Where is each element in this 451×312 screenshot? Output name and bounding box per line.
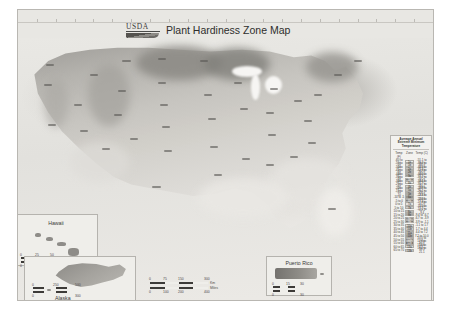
legend-temp-f: 65 to 70 <box>393 248 405 252</box>
legend-rows: -60 to -551a-51.1 to -48.3-55 to -501b-4… <box>393 160 429 252</box>
graticule-tick <box>358 19 359 22</box>
state-label <box>308 142 316 144</box>
state-label <box>44 84 52 86</box>
state-label <box>314 94 322 96</box>
state-label <box>164 150 172 152</box>
inset-alaska-label: Alaska <box>55 295 71 301</box>
state-label <box>242 158 250 160</box>
state-label <box>268 134 276 136</box>
vieques-island <box>320 273 324 275</box>
state-label <box>200 60 208 62</box>
state-label <box>158 82 166 84</box>
graticule-tick <box>112 19 113 22</box>
graticule-tick <box>395 19 396 22</box>
graticule-tick <box>56 19 57 22</box>
graticule-tick <box>207 19 208 22</box>
scale-bar-mi <box>150 287 208 289</box>
state-label <box>334 74 342 76</box>
state-label <box>210 146 218 148</box>
state-label <box>214 174 222 176</box>
scale-tick: 75 <box>163 277 167 281</box>
scale-tick: 0 <box>20 264 22 268</box>
island-hawaii <box>68 248 79 256</box>
island-maui <box>57 242 66 246</box>
great-lakes-michigan <box>251 74 260 100</box>
inset-puerto-rico-label: Puerto Rico <box>267 260 331 266</box>
scale-bar-mi <box>33 291 79 293</box>
state-label <box>208 118 216 120</box>
zone-shading-desert-southwest <box>70 142 130 182</box>
state-label <box>90 74 98 76</box>
scale-bar-mi <box>273 290 303 292</box>
hardiness-zone-map-poster: USDA Plant Hardiness Zone Map <box>17 9 434 301</box>
legend-heading: Average Annual Extreme Minimum Temperatu… <box>393 138 429 150</box>
legend-col-zone: Zone <box>405 151 415 159</box>
scale-tick: 400 <box>204 290 210 294</box>
state-label <box>328 208 336 210</box>
zone-shading-northeast <box>306 52 358 82</box>
map-canvas: Hawaii 0 25 50 0 50 Alaska 0 250 <box>18 38 433 301</box>
great-lakes-huron-erie <box>265 76 282 94</box>
zone-legend-panel: Average Annual Extreme Minimum Temperatu… <box>390 135 432 301</box>
graticule-tick <box>282 19 283 22</box>
state-label <box>240 108 248 110</box>
state-label <box>122 60 131 62</box>
island-oahu <box>46 237 53 241</box>
legend-row: 65 to 7013b18.3 to 21.1 <box>393 248 429 252</box>
legend-zone-swatch: 13b <box>405 249 415 252</box>
graticule-tick <box>226 19 227 22</box>
state-label <box>48 124 56 126</box>
state-label <box>80 130 88 132</box>
legend-temp-c: 18.3 to 21.1 <box>414 246 429 254</box>
usda-wordmark: USDA <box>126 23 160 32</box>
graticule-tick <box>188 19 189 22</box>
state-label <box>354 60 362 62</box>
inset-hawaii-label: Hawaii <box>17 220 97 226</box>
title-block: USDA Plant Hardiness Zone Map <box>126 23 290 36</box>
scale-unit-miles: Miles <box>210 286 218 290</box>
scale-tick: 100 <box>163 290 169 294</box>
graticule-tick <box>37 19 38 22</box>
scale-bar-km <box>33 287 79 289</box>
graticule-tick <box>169 19 170 22</box>
inset-puerto-rico: Puerto Rico 0 15 30 0 30 <box>266 256 332 296</box>
state-label <box>46 64 54 66</box>
scale-tick: 30 <box>300 293 304 297</box>
graticule-tick <box>301 19 302 22</box>
state-label <box>158 58 166 60</box>
title-band: USDA Plant Hardiness Zone Map <box>18 10 433 39</box>
scale-tick: 0 <box>149 290 151 294</box>
state-label <box>114 114 122 116</box>
state-label <box>304 120 312 122</box>
scale-tick: 0 <box>32 294 34 298</box>
state-label <box>130 138 138 140</box>
graticule-tick <box>376 19 377 22</box>
island-kauai <box>35 233 41 237</box>
scale-tick: 300 <box>75 294 81 298</box>
graticule-tick <box>339 19 340 22</box>
inset-alaska: Alaska 0 250 500 0 300 <box>24 256 136 301</box>
state-label <box>74 104 82 106</box>
zone-shading-gulf-coast <box>198 178 288 218</box>
usda-logo: USDA <box>126 23 160 36</box>
graticule-tick <box>263 19 264 22</box>
graticule-tick <box>150 19 151 22</box>
scale-tick: 0 <box>272 293 274 297</box>
state-label <box>234 82 242 84</box>
zone-shading-florida <box>318 188 352 236</box>
state-label <box>118 90 126 92</box>
page-title: Plant Hardiness Zone Map <box>166 24 290 36</box>
puerto-rico-landmass <box>275 268 317 279</box>
scale-bar-km <box>150 282 208 284</box>
state-label <box>294 100 302 102</box>
scale-bar-km <box>273 286 303 288</box>
scale-tick: 200 <box>178 290 184 294</box>
graticule-tick <box>320 19 321 22</box>
state-label <box>290 156 298 158</box>
state-label <box>266 112 274 114</box>
graticule-tick <box>414 19 415 22</box>
state-label <box>152 186 161 188</box>
state-label <box>102 148 110 150</box>
state-label <box>266 164 274 166</box>
scale-tick: 300 <box>204 277 210 281</box>
